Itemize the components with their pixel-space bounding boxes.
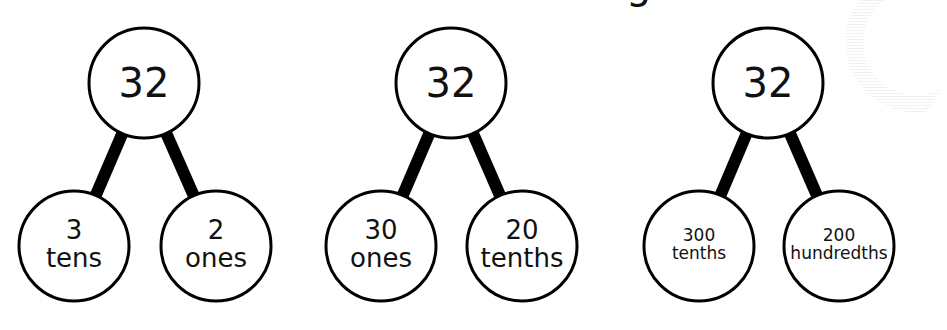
part-right-value: 20 [505,215,538,245]
whole-value: 32 [743,60,794,106]
branch-right [788,130,818,199]
whole-value: 32 [426,60,477,106]
part-left-value: 30 [364,215,397,245]
number-bond-tree: 32 3 tens 2 ones [19,28,271,301]
whole-value: 32 [119,60,170,106]
part-right-unit: hundredths [790,243,887,263]
number-bond-tree: 32 300 tenths 200 hundredths [644,28,894,301]
branch-left [94,130,124,199]
part-right-unit: ones [185,243,247,273]
branch-left [719,130,748,199]
branch-right [165,130,196,200]
part-left-unit: tens [46,243,102,273]
part-left-unit: tenths [672,243,726,263]
part-left-value: 3 [66,215,83,245]
part-right-value: 2 [208,215,225,245]
part-left-unit: ones [350,243,412,273]
part-right-unit: tenths [481,243,564,273]
branch-left [401,130,431,199]
branch-right [471,130,501,199]
number-bond-tree: 32 30 ones 20 tenths [326,28,577,301]
title-fragment: g [626,0,651,7]
